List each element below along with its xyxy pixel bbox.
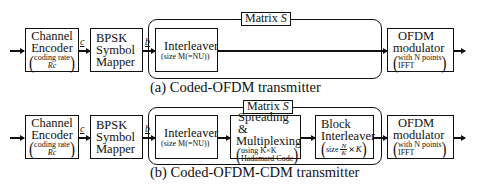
arrow-block-interleaver-to-ofdm <box>374 137 387 139</box>
arrow-encoder-to-mapper-b <box>79 137 90 139</box>
output-arrow-a <box>454 50 465 52</box>
caption-b: (b) Coded-OFDM-CDM transmitter <box>150 164 359 181</box>
arrow-encoder-to-mapper-a <box>79 50 90 52</box>
caption-a: (a) Coded-OFDM transmitter <box>150 79 321 96</box>
block-interleaver-block: Block Interleaver ( size N K × K ) <box>315 115 374 159</box>
spreading-multiplexing-block: Spreading & Multiplexing ( using K×K Had… <box>230 115 301 159</box>
input-arrow-a <box>10 50 24 52</box>
ofdm-modulator-block-b: OFDM modulator ( with N points IFFT ) <box>387 115 454 159</box>
interleaver-block-b: Interleaver (size M(=NU)) <box>155 115 218 159</box>
arrow-spreading-to-block-interleaver <box>301 137 315 139</box>
arrow-interleaver-to-spreading <box>218 137 230 139</box>
channel-encoder-block-b: Channel Encoder ( coding rate Rc ) <box>25 115 79 159</box>
input-arrow-b <box>10 137 24 139</box>
signal-c-label-a: c <box>80 36 84 47</box>
block-interleaver-size: ( size N K × K ) <box>321 142 367 156</box>
bpsk-mapper-block-a: BPSK Symbol Mapper <box>90 28 143 72</box>
block-subtitle: ( coding rate Rc ) <box>29 54 75 70</box>
signal-c-label-b: c <box>80 123 84 134</box>
output-arrow-b <box>454 137 465 139</box>
channel-encoder-block-a: Channel Encoder ( coding rate Rc ) <box>25 28 79 72</box>
interleaver-block-a: Interleaver (size M(=NU)) <box>155 28 218 72</box>
ofdm-modulator-block-a: OFDM modulator ( with N points IFFT ) <box>387 28 454 72</box>
matrix-s-label-a: Matrix S <box>241 12 291 26</box>
arrow-interleaver-to-ofdm-a <box>218 50 387 52</box>
bpsk-mapper-block-b: BPSK Symbol Mapper <box>90 115 143 159</box>
